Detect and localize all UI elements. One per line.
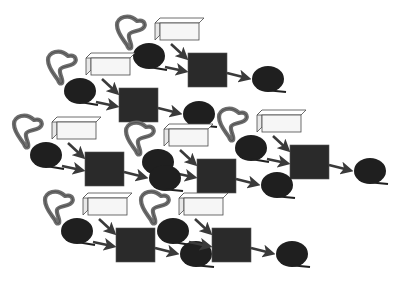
cofactor-box-icon xyxy=(91,58,130,75)
arrow-box-to-complex xyxy=(273,136,287,149)
complex-icon xyxy=(290,145,329,179)
substrate-icon xyxy=(133,43,165,69)
arrow-complex-to-product xyxy=(251,248,271,253)
cofactor-box-icon xyxy=(184,198,223,215)
arrow-box-to-complex xyxy=(195,219,209,232)
cofactor-box-top xyxy=(155,18,204,23)
cofactor-box-icon xyxy=(88,198,127,215)
cofactor-box-icon xyxy=(262,115,301,132)
arrow-complex-to-product xyxy=(329,165,349,170)
arrow-complex-to-product xyxy=(227,73,247,78)
product-icon xyxy=(276,241,308,267)
complex-icon xyxy=(119,88,158,122)
cofactor-box-icon xyxy=(160,23,199,40)
product-icon xyxy=(354,158,386,184)
cofactor-box-top xyxy=(179,193,228,198)
complex-icon xyxy=(188,53,227,87)
substrate-icon xyxy=(64,78,96,104)
substrate-icon xyxy=(157,218,189,244)
complex-icon xyxy=(212,228,251,262)
reaction-diagram xyxy=(0,0,403,282)
arrow-substrate-to-complex xyxy=(267,159,286,163)
arrow-complex-to-product xyxy=(155,248,175,253)
arrow-box-to-complex xyxy=(180,150,194,163)
arrow-substrate-to-complex xyxy=(93,242,112,246)
substrate-icon xyxy=(235,135,267,161)
product-icon xyxy=(149,165,181,191)
reaction-motif xyxy=(117,17,286,92)
arrow-complex-to-product xyxy=(236,179,256,184)
arrow-box-to-complex xyxy=(99,219,113,232)
product-icon xyxy=(252,66,284,92)
arrow-substrate-to-complex xyxy=(96,102,115,106)
cofactor-box-top xyxy=(257,110,306,115)
cofactor-box-top xyxy=(164,124,213,129)
product-icon xyxy=(261,172,293,198)
substrate-icon xyxy=(30,142,62,168)
complex-icon xyxy=(85,152,124,186)
cofactor-box-top xyxy=(52,117,101,122)
cofactor-box-top xyxy=(86,53,135,58)
arrow-complex-to-product xyxy=(158,108,178,113)
cofactor-box-icon xyxy=(169,129,208,146)
cofactor-box-icon xyxy=(57,122,96,139)
arrow-box-to-complex xyxy=(68,143,82,156)
reaction-motif xyxy=(219,109,388,184)
reaction-motif xyxy=(141,192,310,267)
complex-icon xyxy=(116,228,155,262)
arrow-substrate-to-complex xyxy=(62,166,81,170)
complex-icon xyxy=(197,159,236,193)
arrow-box-to-complex xyxy=(102,79,116,92)
arrow-box-to-complex xyxy=(171,44,185,57)
substrate-icon xyxy=(61,218,93,244)
product-icon xyxy=(183,101,215,127)
cofactor-box-top xyxy=(83,193,132,198)
arrow-substrate-to-complex xyxy=(165,67,184,71)
arrow-complex-to-product xyxy=(124,172,144,177)
